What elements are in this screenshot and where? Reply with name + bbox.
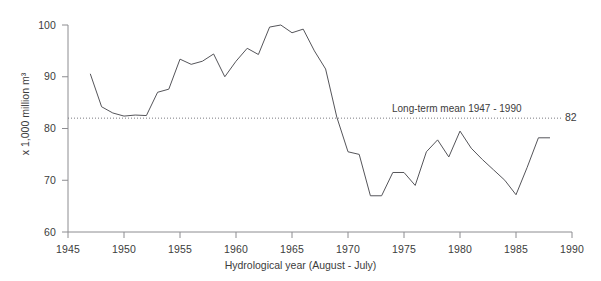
y-axis-title: x 1,000 million m³ bbox=[19, 59, 31, 169]
x-tick-label-1975: 1975 bbox=[379, 243, 429, 255]
x-tick-label-1970: 1970 bbox=[323, 243, 373, 255]
x-axis-title: Hydrological year (August - July) bbox=[0, 259, 601, 271]
line-chart: 100 90 80 70 60 1945 1950 1955 1960 1965… bbox=[0, 0, 601, 281]
x-tick-label-1960: 1960 bbox=[211, 243, 261, 255]
long-term-mean-value: 82 bbox=[565, 111, 577, 123]
x-tick-label-1965: 1965 bbox=[267, 243, 317, 255]
y-tick-label-60: 60 bbox=[22, 226, 56, 238]
y-axis-ticks bbox=[62, 25, 68, 232]
x-tick-label-1955: 1955 bbox=[155, 243, 205, 255]
y-tick-label-70: 70 bbox=[22, 174, 56, 186]
x-tick-label-1945: 1945 bbox=[43, 243, 93, 255]
x-tick-label-1985: 1985 bbox=[491, 243, 541, 255]
x-tick-label-1990: 1990 bbox=[547, 243, 597, 255]
plot-area bbox=[0, 0, 601, 281]
x-tick-label-1980: 1980 bbox=[435, 243, 485, 255]
long-term-mean-label: Long-term mean 1947 - 1990 bbox=[392, 103, 522, 114]
x-axis-ticks bbox=[68, 232, 572, 238]
y-tick-label-100: 100 bbox=[22, 19, 56, 31]
x-tick-label-1950: 1950 bbox=[99, 243, 149, 255]
